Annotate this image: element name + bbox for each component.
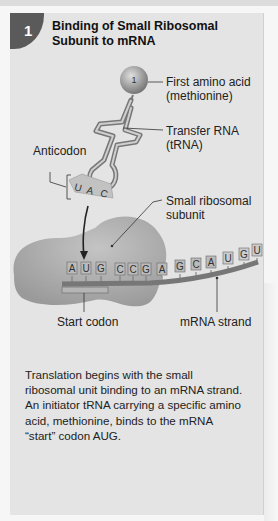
svg-text:G: G bbox=[240, 249, 248, 260]
label-small-subunit: Small ribosomal subunit bbox=[166, 194, 251, 222]
svg-text:U: U bbox=[224, 253, 231, 264]
svg-text:G: G bbox=[142, 264, 150, 275]
svg-text:G: G bbox=[176, 261, 184, 272]
svg-text:U: U bbox=[82, 263, 89, 274]
anticodon-leader bbox=[50, 172, 66, 187]
svg-text:G: G bbox=[97, 263, 105, 274]
leader-subunit-end bbox=[153, 200, 162, 202]
label-anticodon: Anticodon bbox=[33, 144, 86, 158]
svg-text:C: C bbox=[116, 264, 123, 275]
step-title: Binding of Small Ribosomal Subunit to mR… bbox=[52, 19, 262, 49]
svg-text:A: A bbox=[69, 263, 76, 274]
start-codon-box bbox=[62, 287, 108, 293]
svg-text:U: U bbox=[253, 245, 260, 256]
svg-text:C: C bbox=[192, 259, 199, 270]
label-start-codon: Start codon bbox=[57, 315, 118, 329]
amino-acid-number: 1 bbox=[128, 73, 140, 87]
svg-text:A: A bbox=[208, 257, 215, 268]
step-number: 1 bbox=[24, 22, 32, 39]
label-mrna-strand: mRNA strand bbox=[180, 315, 251, 329]
svg-text:C: C bbox=[129, 264, 136, 275]
anticodon-bracket bbox=[67, 175, 71, 199]
svg-text:C: C bbox=[99, 187, 109, 199]
step-description: Translation begins with the small riboso… bbox=[25, 367, 245, 443]
label-first-amino-acid: First amino acid (methionine) bbox=[166, 75, 251, 103]
anticodon-bases: U A C bbox=[69, 174, 113, 200]
label-transfer-rna: Transfer RNA (tRNA) bbox=[166, 124, 239, 152]
svg-text:A: A bbox=[159, 264, 166, 275]
